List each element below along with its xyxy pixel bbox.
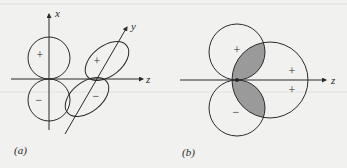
caption-b: (b) <box>182 147 195 158</box>
caption-a: (a) <box>14 145 27 156</box>
z-axis-label-b: z <box>331 75 335 86</box>
orbital-overlap-figure: x y z + − + − (a) z + − + + (b) <box>0 0 347 168</box>
x-axis-label-a: x <box>55 8 60 19</box>
sign-b-small-lower: − <box>233 106 240 118</box>
sign-b-large-upper: + <box>289 65 296 77</box>
origin-dot-b <box>235 78 239 82</box>
sign-a-tilted-lower: − <box>93 90 100 102</box>
sign-b-small-upper: + <box>234 44 241 56</box>
panel-a <box>11 14 143 134</box>
y-axis-label-a: y <box>131 21 136 32</box>
panel-b <box>180 24 326 136</box>
sign-b-large-lower: + <box>289 84 296 96</box>
sign-a-lower: − <box>36 94 43 106</box>
sign-a-upper: + <box>37 49 44 61</box>
sign-a-tilted-upper: + <box>94 55 101 67</box>
z-axis-label-a: z <box>146 74 150 85</box>
